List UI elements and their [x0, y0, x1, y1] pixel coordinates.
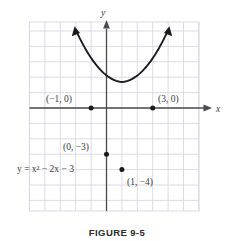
label-root-left: (−1, 0): [46, 94, 72, 105]
label-y-intercept: (0, −3): [63, 142, 89, 153]
figure-caption: FIGURE 9-5: [89, 227, 145, 238]
equation-label: y = x² − 2x − 3: [17, 164, 74, 174]
point-y-intercept: [104, 152, 109, 157]
label-root-right: (3, 0): [158, 94, 179, 105]
point-root-left: [89, 106, 94, 111]
y-axis-label: y: [100, 8, 106, 18]
point-vertex: [119, 167, 124, 172]
point-root-right: [150, 106, 155, 111]
figure-container: x y (−1, 0) (3, 0) (0, −3) (1, −4) y = x…: [0, 0, 234, 241]
graph-plot: x y (−1, 0) (3, 0) (0, −3) (1, −4) y = x…: [0, 0, 234, 241]
figure-caption-container: FIGURE 9-5: [0, 222, 234, 240]
x-axis-label: x: [215, 104, 221, 114]
label-vertex: (1, −4): [127, 177, 153, 188]
